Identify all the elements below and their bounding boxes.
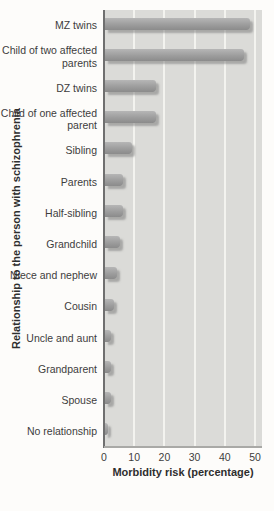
bar bbox=[105, 361, 111, 373]
x-tick-label: 40 bbox=[213, 451, 237, 463]
bar-track bbox=[104, 322, 262, 353]
figure: MZ twinsChild of two affected parentsDZ … bbox=[0, 0, 274, 511]
x-tick-label: 30 bbox=[183, 451, 207, 463]
category-label: MZ twins bbox=[0, 19, 104, 31]
bar bbox=[105, 111, 156, 123]
bar bbox=[105, 205, 123, 217]
bar-track bbox=[104, 10, 262, 41]
bar bbox=[105, 18, 250, 30]
bar bbox=[105, 174, 123, 186]
bar-row: Cousin bbox=[0, 291, 274, 322]
category-label: No relationship bbox=[0, 425, 104, 437]
bar-row: Spouse bbox=[0, 385, 274, 416]
bar bbox=[105, 236, 120, 248]
bar-row: Parents bbox=[0, 166, 274, 197]
bar-track bbox=[104, 197, 262, 228]
bar-rows: MZ twinsChild of two affected parentsDZ … bbox=[0, 10, 274, 447]
bar-row: Child of two affected parents bbox=[0, 41, 274, 72]
x-tick-label: 50 bbox=[243, 451, 267, 463]
bar-track bbox=[104, 229, 262, 260]
bar-track bbox=[104, 353, 262, 384]
category-label: Spouse bbox=[0, 394, 104, 406]
x-tick-label: 10 bbox=[122, 451, 146, 463]
bar bbox=[105, 423, 108, 435]
bar-row: Sibling bbox=[0, 135, 274, 166]
x-tick-label: 0 bbox=[92, 451, 116, 463]
bar-row: Child of one affected parent bbox=[0, 104, 274, 135]
bar-row: Grandparent bbox=[0, 353, 274, 384]
category-label: DZ twins bbox=[0, 82, 104, 94]
bar-row: DZ twins bbox=[0, 72, 274, 103]
bar-track bbox=[104, 260, 262, 291]
bar bbox=[105, 142, 132, 154]
bar-row: No relationship bbox=[0, 416, 274, 447]
bar-row: Half-sibling bbox=[0, 197, 274, 228]
bar bbox=[105, 392, 111, 404]
bar-row: Uncle and aunt bbox=[0, 322, 274, 353]
y-axis-title: Relationship to the person with schizoph… bbox=[10, 109, 22, 349]
bar bbox=[105, 267, 117, 279]
bar-track bbox=[104, 416, 262, 447]
bar bbox=[105, 299, 114, 311]
x-axis-title: Morbidity risk (percentage) bbox=[104, 466, 262, 478]
x-tick-label: 20 bbox=[152, 451, 176, 463]
bar bbox=[105, 330, 111, 342]
bar-row: Grandchild bbox=[0, 229, 274, 260]
bar-track bbox=[104, 104, 262, 135]
bar-track bbox=[104, 166, 262, 197]
bar-track bbox=[104, 72, 262, 103]
bar-track bbox=[104, 291, 262, 322]
bar-track bbox=[104, 135, 262, 166]
bar-row: MZ twins bbox=[0, 10, 274, 41]
bar-track bbox=[104, 385, 262, 416]
bar-track bbox=[104, 41, 262, 72]
category-label: Grandparent bbox=[0, 363, 104, 375]
bar-row: Niece and nephew bbox=[0, 260, 274, 291]
bar bbox=[105, 80, 156, 92]
category-label: Child of two affected parents bbox=[0, 44, 104, 69]
bar bbox=[105, 49, 244, 61]
